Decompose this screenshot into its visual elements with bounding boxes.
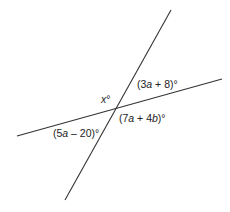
label-prefix: (5: [53, 127, 62, 139]
label-suffix: – 20)°: [68, 127, 99, 139]
shallow-line: [17, 79, 222, 136]
label-prefix: (7: [119, 112, 128, 124]
degree-symbol: °: [106, 93, 110, 105]
label-suffix: + 8)°: [152, 78, 178, 90]
angle-label-7a-plus-4b: (7a + 4b)°: [119, 113, 166, 124]
intersecting-lines-diagram: x° (3a + 8)° (7a + 4b)° (5a – 20)°: [0, 0, 230, 212]
label-prefix: (3: [137, 78, 146, 90]
steep-line: [65, 10, 171, 200]
angle-label-5a-minus-20: (5a – 20)°: [53, 128, 99, 139]
label-suffix: )°: [158, 112, 166, 124]
lines-canvas: [0, 0, 230, 212]
label-mid: + 4: [134, 112, 152, 124]
angle-label-x: x°: [101, 94, 110, 105]
angle-label-3a-plus-8: (3a + 8)°: [137, 79, 178, 90]
